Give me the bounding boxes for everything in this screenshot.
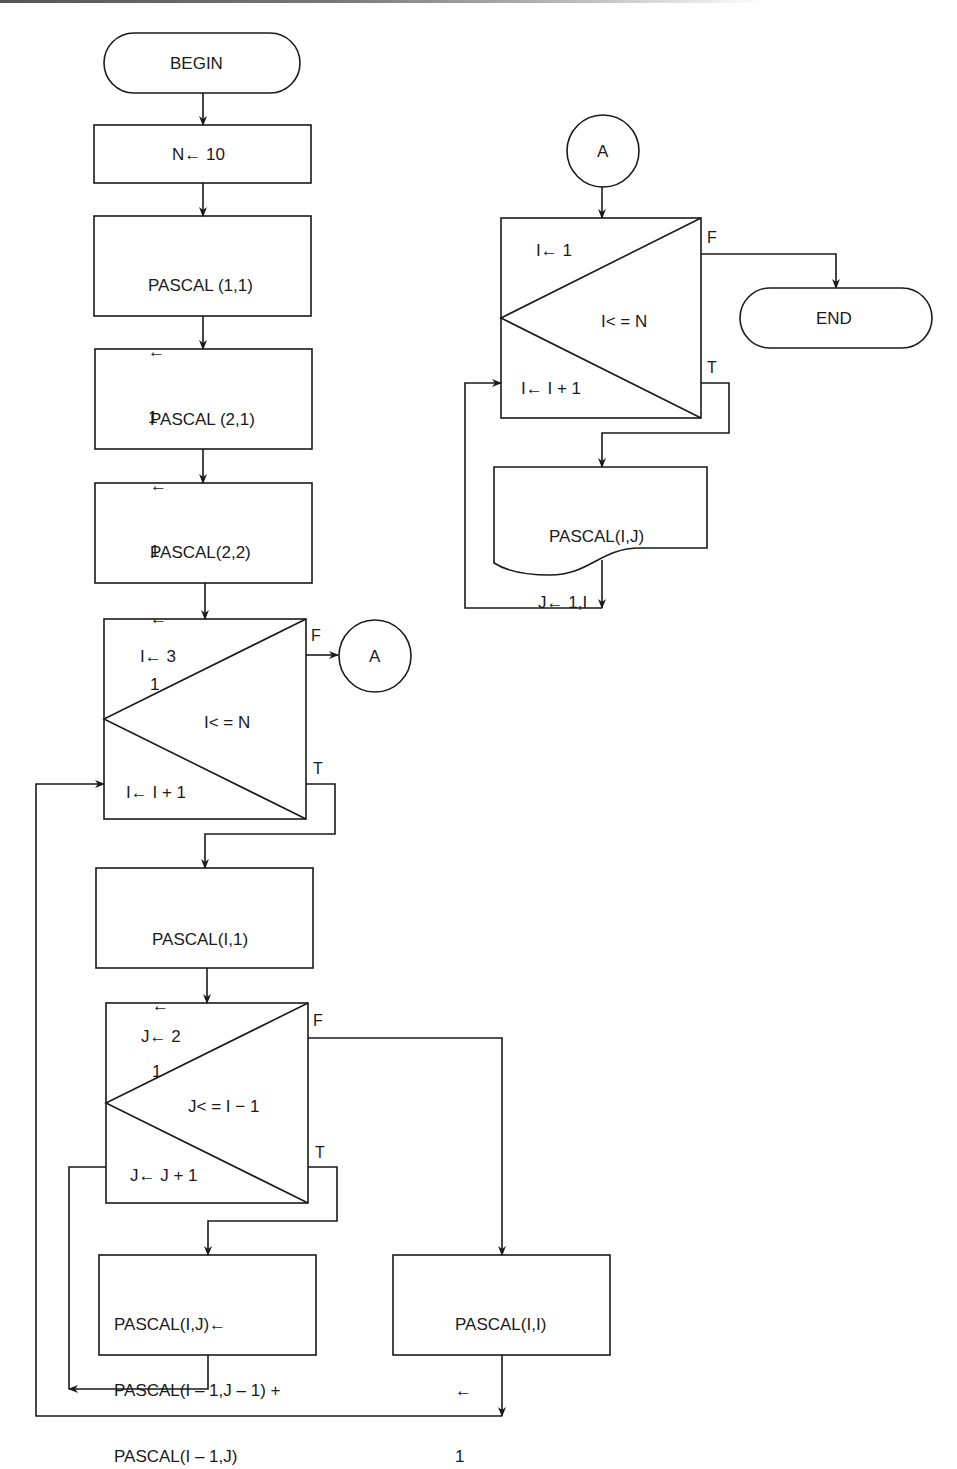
init-n-label: N← 10 [172, 146, 225, 163]
loop-j-increment: J← J + 1 [130, 1167, 198, 1184]
pascal-i-j-line-2: PASCAL(I – 1,J – 1) + [114, 1380, 280, 1402]
pascal-2-2-text: PASCAL(2,2) ← 1 [150, 498, 251, 740]
loop-i-increment: I← I + 1 [126, 784, 186, 801]
loop-i-true-label: T [313, 761, 323, 777]
loop-output-false-label: F [707, 230, 717, 246]
loop-output-condition: I< = N [601, 313, 647, 330]
loop-output-increment: I← I + 1 [521, 380, 581, 397]
pascal-i-i-line-1: PASCAL(I,I) [455, 1314, 546, 1336]
pascal-2-2-line-2: ← [150, 608, 251, 630]
loop-output-init: I← 1 [536, 242, 572, 259]
loop-i-condition: I< = N [204, 714, 250, 731]
loop-output-true-label: T [707, 360, 717, 376]
loop-j-init: J← 2 [141, 1028, 181, 1045]
pascal-i-j-line-1: PASCAL(I,J)← [114, 1314, 280, 1336]
pascal-i-j-text: PASCAL(I,J)← PASCAL(I – 1,J – 1) + PASCA… [114, 1270, 280, 1469]
pascal-i-i-line-3: 1 [455, 1446, 546, 1468]
connector-a-in-label: A [597, 143, 608, 160]
pascal-2-2-line-1: PASCAL(2,2) [150, 542, 251, 564]
pascal-2-2-line-3: 1 [150, 674, 251, 696]
loop-i-init: I← 3 [140, 648, 176, 665]
pascal-i-1-line-1: PASCAL(I,1) [152, 929, 248, 951]
pascal-i-1-line-3: 1 [152, 1061, 248, 1083]
loop-j-true-label: T [315, 1145, 325, 1161]
loop-j-condition: J< = I − 1 [188, 1098, 259, 1115]
pascal-i-1-text: PASCAL(I,1) ← 1 [152, 885, 248, 1127]
print-line-1: PASCAL(I,J) [549, 526, 644, 548]
connector-a-out-label: A [369, 648, 380, 665]
pascal-i-i-line-2: ← [455, 1380, 546, 1402]
pascal-2-1-line-1: PASCAL (2,1) [150, 409, 255, 431]
pascal-i-1-line-2: ← [152, 995, 248, 1017]
pascal-i-j-line-3: PASCAL(I – 1,J) [114, 1446, 280, 1468]
pascal-1-1-line-2: ← [148, 341, 253, 363]
loop-j-false-label: F [313, 1013, 323, 1029]
print-line-2: J← 1,I [538, 592, 644, 614]
pascal-2-1-line-2: ← [150, 475, 255, 497]
end-label: END [816, 310, 852, 327]
print-text: PASCAL(I,J) J← 1,I [549, 482, 644, 658]
begin-label: BEGIN [170, 55, 223, 72]
pascal-i-i-text: PASCAL(I,I) ← 1 [455, 1270, 546, 1469]
pascal-1-1-line-1: PASCAL (1,1) [148, 275, 253, 297]
loop-i-false-label: F [311, 628, 321, 644]
